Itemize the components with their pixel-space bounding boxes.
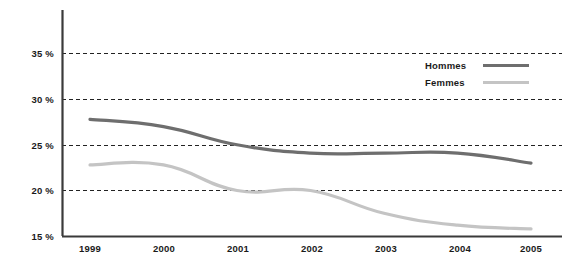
x-tick-label-2001: 2001 xyxy=(213,243,263,254)
x-tick-label-2005: 2005 xyxy=(506,243,556,254)
y-tick-label-25: 25 % xyxy=(14,140,54,151)
legend-label-femmes: Femmes xyxy=(425,77,483,88)
x-tick-label-2003: 2003 xyxy=(361,243,411,254)
legend-item-hommes: Hommes xyxy=(425,57,545,74)
legend-swatch-hommes xyxy=(483,64,529,67)
legend-item-femmes: Femmes xyxy=(425,74,545,91)
x-tick-label-2002: 2002 xyxy=(287,243,337,254)
y-tick-label-20: 20 % xyxy=(14,185,54,196)
y-tick-label-35: 35 % xyxy=(14,48,54,59)
y-tick-label-30: 30 % xyxy=(14,94,54,105)
legend-label-hommes: Hommes xyxy=(425,60,483,71)
line-chart: 35 % 30 % 25 % 20 % 15 % 1999 2000 2001 … xyxy=(0,0,582,266)
y-tick-label-15: 15 % xyxy=(14,231,54,242)
legend-swatch-femmes xyxy=(483,81,529,84)
x-tick-label-2004: 2004 xyxy=(435,243,485,254)
chart-plot-area xyxy=(0,0,582,266)
chart-legend: Hommes Femmes xyxy=(425,57,545,91)
series-line-femmes xyxy=(90,162,531,228)
x-tick-label-1999: 1999 xyxy=(65,243,115,254)
x-tick-label-2000: 2000 xyxy=(139,243,189,254)
series-line-hommes xyxy=(90,119,531,163)
